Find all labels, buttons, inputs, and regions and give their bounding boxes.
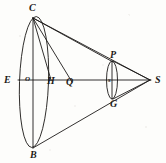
ray-B-to-S [33, 80, 150, 148]
point-label-P: P [110, 50, 116, 60]
point-label-O: O [25, 76, 30, 83]
large-ellipse [17, 16, 51, 148]
ray-G-to-S [113, 80, 150, 99]
point-label-s: s [108, 77, 111, 84]
point-label-E: E [4, 75, 11, 85]
point-label-C: C [29, 3, 36, 13]
point-label-Q: Q [66, 77, 73, 87]
point-label-G: G [110, 99, 117, 109]
point-label-B: B [30, 150, 37, 160]
point-label-H: H [47, 76, 55, 86]
ray-P-to-S [113, 61, 150, 80]
point-label-S: S [155, 75, 161, 85]
ray-C-to-Q [33, 18, 72, 82]
geometric-figure: CEOHQPsGSB [0, 0, 166, 163]
ray-C-to-P [33, 18, 113, 62]
lines-group [18, 18, 151, 148]
